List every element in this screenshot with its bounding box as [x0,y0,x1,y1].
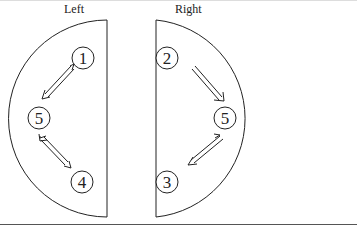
node-right-2-label: 2 [163,49,172,68]
edge-right-2-5 [192,66,224,101]
edge-left-1-5 [42,64,74,99]
hemisphere-diagram: 1 5 4 2 5 3 [0,0,357,231]
node-left-4-label: 4 [78,173,87,192]
node-right-3-label: 3 [163,173,172,192]
bottom-rule [0,224,357,225]
node-right-5-label: 5 [221,109,230,128]
edge-left-5-4 [39,134,71,168]
node-left-5-label: 5 [35,109,44,128]
node-left-1-label: 1 [79,49,88,68]
left-hemisphere [9,20,107,217]
edge-right-5-3 [188,134,223,165]
